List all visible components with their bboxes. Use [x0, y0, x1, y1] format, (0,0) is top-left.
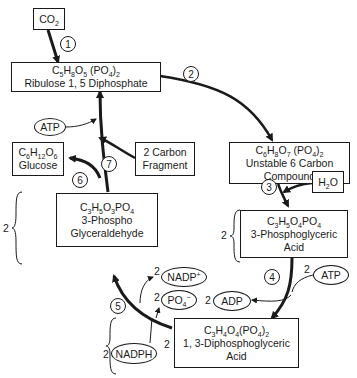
dpga-coefficient: 2: [164, 338, 170, 350]
unstable-name-line1: Unstable 6 Carbon: [246, 157, 334, 170]
h2o-box: H2O: [312, 171, 344, 193]
pgal-name-line1: 3-Phospho: [82, 214, 133, 227]
po4-coefficient: 2: [154, 291, 160, 303]
co2-box: CO2: [33, 8, 65, 30]
pgal-coefficient: 2: [3, 222, 9, 234]
atp-right-coefficient: 2: [304, 263, 310, 275]
nadph-oval: NADPH: [111, 343, 157, 364]
rudp-name: Ribulose 1, 5 Diphosphate: [24, 77, 147, 90]
glucose-name: Glucose: [19, 159, 58, 172]
rudp-formula: C5H8O5 (PO4)2: [52, 64, 120, 77]
ribulose-diphosphate-box: C5H8O5 (PO4)2 Ribulose 1, 5 Diphosphate: [11, 62, 161, 92]
carbon-fragment-line2: Fragment: [143, 159, 188, 172]
carbon-fragment-line1: 2 Carbon: [143, 146, 186, 159]
nadp-coefficient: 2: [154, 265, 160, 277]
adp-oval: ADP: [213, 291, 251, 311]
pga-name-line2: Acid: [284, 241, 304, 254]
atp-oval-top: ATP: [34, 118, 66, 136]
pga-coefficient: 2: [221, 229, 227, 241]
step-7-marker: 7: [101, 156, 117, 172]
glucose-formula: C6H12O6: [19, 146, 58, 159]
adp-coefficient: 2: [205, 294, 211, 306]
nadph-coefficient: 2: [103, 348, 109, 360]
phosphate-oval: PO4−: [161, 290, 197, 310]
dpga-formula: C3H4O4(PO4)2: [204, 324, 269, 337]
atp-oval-right: ATP: [313, 265, 349, 285]
nadp-plus-oval: NADP+: [161, 267, 207, 287]
step-3-marker: 3: [261, 179, 277, 195]
phosphoglyceraldehyde-box: C3H5O3PO4 3-Phospho Glyceraldehyde: [56, 193, 158, 247]
step-1-marker: 1: [60, 36, 76, 52]
step-6-marker: 6: [72, 172, 88, 188]
pga-name-line1: 3-Phosphoglyceric: [251, 228, 337, 241]
step-4-marker: 4: [264, 269, 280, 285]
phosphoglyceric-acid-box: C3H5O4PO4 3-Phosphoglyceric Acid: [240, 210, 348, 258]
diphosphoglyceric-acid-box: C3H4O4(PO4)2 1, 3-Diphosphoglyceric Acid: [174, 318, 299, 368]
unstable-formula: C6H8O7 (PO4)2: [256, 144, 324, 157]
pgal-name-line2: Glyceraldehyde: [71, 227, 144, 240]
dpga-name-line1: 1, 3-Diphosphoglyceric: [183, 337, 290, 350]
dpga-name-line2: Acid: [226, 350, 246, 363]
carbon-fragment-box: 2 Carbon Fragment: [135, 142, 195, 176]
step-5-marker: 5: [110, 298, 126, 314]
pgal-formula: C3H5O3PO4: [80, 201, 134, 214]
glucose-box: C6H12O6 Glucose: [12, 142, 64, 176]
co2-label: CO: [39, 13, 55, 25]
step-2-marker: 2: [183, 66, 199, 82]
pga-formula: C3H5O4PO4: [267, 215, 321, 228]
